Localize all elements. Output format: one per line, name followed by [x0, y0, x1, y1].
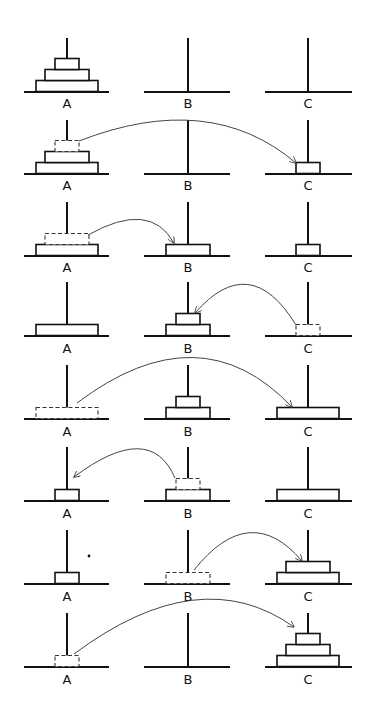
- peg-c: C: [265, 613, 352, 687]
- move-arrow: [195, 284, 296, 325]
- disc-large: [36, 81, 98, 92]
- peg-a: A: [24, 38, 109, 111]
- peg-a: A: [24, 447, 109, 521]
- peg-c: C: [265, 120, 352, 193]
- disc-large: [277, 573, 339, 584]
- peg-c: C: [265, 447, 352, 521]
- tower-of-hanoi-diagram: ABCABCABCABCABCABCABCABC: [0, 0, 370, 719]
- disc-large: [36, 325, 98, 336]
- peg-a: A: [24, 120, 109, 193]
- peg-c: C: [265, 202, 352, 275]
- disc-large: [277, 408, 339, 419]
- peg-label: A: [63, 178, 72, 193]
- step-row: ABC: [24, 530, 352, 604]
- ghost-disc-small: [296, 325, 320, 336]
- disc-large: [36, 163, 98, 174]
- move-arrow: [74, 449, 175, 478]
- move-arrow: [88, 219, 174, 243]
- peg-label: B: [184, 424, 193, 439]
- disc-large: [36, 245, 98, 256]
- disc-small: [296, 634, 320, 645]
- peg-label: C: [303, 672, 312, 687]
- disc-small: [55, 59, 79, 70]
- peg-b: B: [144, 530, 230, 604]
- peg-label: A: [63, 341, 72, 356]
- step-rows: ABCABCABCABCABCABCABCABC: [24, 38, 352, 687]
- peg-label: A: [63, 424, 72, 439]
- disc-small: [296, 163, 320, 174]
- step-row: ABC: [24, 599, 352, 687]
- peg-c: C: [265, 38, 352, 111]
- peg-a: A: [24, 282, 109, 356]
- disc-small: [55, 490, 79, 501]
- peg-a: A: [24, 530, 109, 604]
- peg-a: A: [24, 613, 109, 687]
- disc-medium: [45, 152, 89, 163]
- peg-label: C: [303, 260, 312, 275]
- step-row: ABC: [24, 202, 352, 275]
- step-row: ABC: [24, 447, 352, 521]
- disc-large: [277, 656, 339, 667]
- peg-label: C: [303, 178, 312, 193]
- peg-label: A: [63, 589, 72, 604]
- peg-label: A: [63, 672, 72, 687]
- peg-label: C: [303, 96, 312, 111]
- peg-b: B: [144, 365, 230, 439]
- disc-large: [277, 490, 339, 501]
- disc-small: [55, 573, 79, 584]
- ghost-disc-large: [36, 408, 98, 419]
- peg-label: C: [303, 589, 312, 604]
- disc-medium: [166, 490, 210, 501]
- peg-label: B: [184, 506, 193, 521]
- stray-dot: [88, 555, 91, 558]
- peg-label: B: [184, 178, 193, 193]
- disc-medium: [45, 70, 89, 81]
- peg-label: B: [184, 672, 193, 687]
- disc-medium: [166, 408, 210, 419]
- peg-label: B: [184, 96, 193, 111]
- disc-small: [176, 314, 200, 325]
- peg-b: B: [144, 120, 230, 193]
- peg-label: A: [63, 96, 72, 111]
- peg-label: B: [184, 341, 193, 356]
- peg-label: A: [63, 260, 72, 275]
- ghost-disc-small: [176, 479, 200, 490]
- peg-label: C: [303, 424, 312, 439]
- disc-medium: [166, 325, 210, 336]
- ghost-disc-small: [55, 656, 79, 667]
- peg-c: C: [265, 365, 352, 439]
- disc-medium: [286, 562, 330, 573]
- peg-b: B: [144, 202, 230, 275]
- peg-c: C: [265, 530, 352, 604]
- disc-small: [176, 397, 200, 408]
- ghost-disc-small: [55, 141, 79, 152]
- peg-label: B: [184, 260, 193, 275]
- move-arrow: [74, 599, 294, 654]
- peg-label: C: [303, 341, 312, 356]
- step-row: ABC: [24, 282, 352, 356]
- peg-label: A: [63, 506, 72, 521]
- step-row: ABC: [24, 120, 352, 193]
- disc-small: [296, 245, 320, 256]
- peg-b: B: [144, 38, 230, 111]
- peg-c: C: [265, 282, 352, 356]
- peg-label: C: [303, 506, 312, 521]
- ghost-disc-medium: [166, 573, 210, 584]
- disc-medium: [166, 245, 210, 256]
- step-row: ABC: [24, 38, 352, 111]
- step-row: ABC: [24, 357, 352, 439]
- ghost-disc-medium: [45, 234, 89, 245]
- peg-b: B: [144, 613, 230, 687]
- disc-medium: [286, 645, 330, 656]
- peg-a: A: [24, 365, 109, 439]
